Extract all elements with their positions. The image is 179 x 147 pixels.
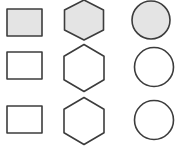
shapes-group <box>7 0 174 145</box>
outline-rectangle-row3 <box>7 106 42 133</box>
outline-hexagon-row2 <box>64 45 104 92</box>
shape-grid <box>0 0 179 147</box>
filled-hexagon-row1 <box>65 0 104 40</box>
outline-circle-row3 <box>135 101 174 140</box>
filled-circle-row1 <box>132 1 170 39</box>
outline-hexagon-row3 <box>64 98 104 145</box>
outline-circle-row2 <box>135 48 174 87</box>
filled-rectangle-row1 <box>7 9 42 36</box>
outline-rectangle-row2 <box>7 52 42 79</box>
